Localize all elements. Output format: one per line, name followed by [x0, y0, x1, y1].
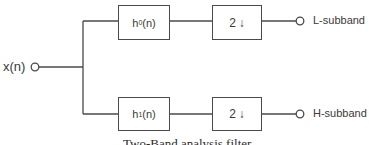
diagram-caption: Two-Band analysis filter — [123, 137, 251, 145]
h-subband-terminal-icon — [296, 110, 304, 118]
down-arrow-icon: ↓ — [239, 107, 245, 121]
l-subband-label: L-subband — [313, 15, 365, 26]
filter-suffix: (n) — [142, 108, 155, 120]
lowpass-filter-block: h0(n) — [118, 5, 170, 40]
downsample-factor: 2 — [229, 16, 236, 30]
downsample-factor: 2 — [229, 107, 236, 121]
down-arrow-icon: ↓ — [239, 16, 245, 30]
input-terminal-icon — [31, 63, 39, 71]
input-label: x(n) — [3, 60, 25, 73]
highpass-filter-block: h1(n) — [118, 97, 170, 131]
l-subband-terminal-icon — [296, 17, 304, 25]
bottom-downsampler-block: 2 ↓ — [212, 97, 262, 131]
filter-suffix: (n) — [142, 17, 155, 29]
top-downsampler-block: 2 ↓ — [212, 5, 262, 40]
two-band-analysis-diagram: x(n) h0(n) 2 ↓ L-subband h1(n) 2 ↓ H-sub… — [0, 0, 369, 145]
h-subband-label: H-subband — [313, 108, 367, 119]
